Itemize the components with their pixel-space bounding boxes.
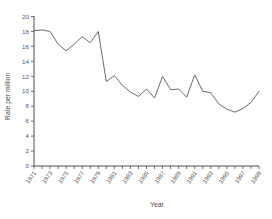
x-axis-title: Year bbox=[150, 201, 164, 208]
x-tick-label: 1973 bbox=[41, 170, 54, 185]
x-tick-label: 1989 bbox=[169, 170, 182, 185]
x-tick-label: 1971 bbox=[25, 170, 38, 185]
data-line-rate-per-million bbox=[34, 30, 259, 112]
x-axis-ticks: 1971197319751977197919811983198519871989… bbox=[25, 166, 263, 185]
y-tick-label: 10 bbox=[22, 87, 29, 94]
y-tick-label: 6 bbox=[26, 117, 30, 124]
x-tick-label: 1981 bbox=[105, 170, 118, 185]
x-tick-label: 1995 bbox=[218, 170, 231, 185]
x-tick-label: 1991 bbox=[185, 170, 198, 185]
x-tick-label: 1999 bbox=[250, 170, 263, 185]
y-tick-label: 4 bbox=[26, 132, 30, 139]
x-tick-label: 1977 bbox=[73, 170, 86, 185]
x-tick-label: 1983 bbox=[121, 170, 134, 185]
y-tick-label: 0 bbox=[26, 162, 30, 169]
x-tick-label: 1993 bbox=[202, 170, 215, 185]
line-chart-svg: 02468101214161820 1971197319751977197919… bbox=[0, 0, 272, 219]
y-tick-label: 20 bbox=[22, 13, 29, 20]
x-tick-label: 1975 bbox=[57, 170, 70, 185]
y-tick-label: 14 bbox=[22, 58, 29, 65]
y-axis-ticks: 02468101214161820 bbox=[22, 13, 34, 170]
y-tick-label: 12 bbox=[22, 73, 29, 80]
y-tick-label: 2 bbox=[26, 147, 30, 154]
y-axis-title: Rate per million bbox=[4, 73, 12, 120]
chart-container: 02468101214161820 1971197319751977197919… bbox=[0, 0, 272, 219]
x-tick-label: 1979 bbox=[89, 170, 102, 185]
y-tick-label: 16 bbox=[22, 43, 29, 50]
x-tick-label: 1985 bbox=[137, 170, 150, 185]
x-tick-label: 1997 bbox=[234, 170, 247, 185]
x-tick-label: 1987 bbox=[153, 170, 166, 185]
y-tick-label: 8 bbox=[26, 102, 30, 109]
y-tick-label: 18 bbox=[22, 28, 29, 35]
